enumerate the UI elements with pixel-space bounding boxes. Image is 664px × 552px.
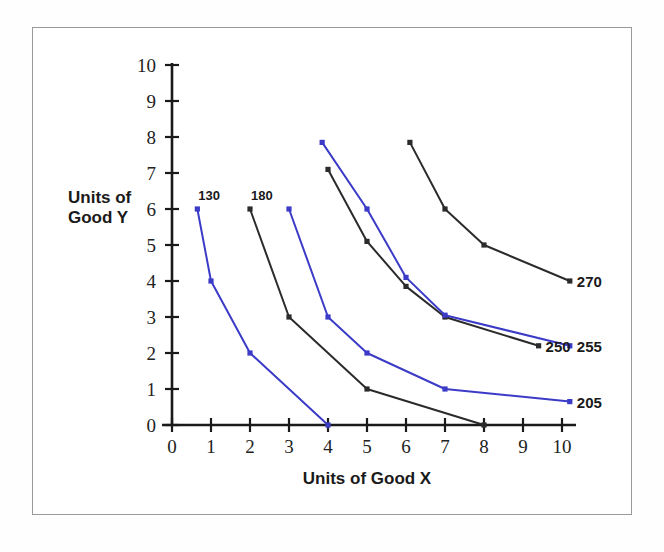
data-point-marker <box>481 422 486 427</box>
x-tick-label: 10 <box>553 436 572 457</box>
data-point-marker <box>208 278 213 283</box>
y-tick-label: 8 <box>147 127 157 148</box>
data-point-marker <box>407 140 412 145</box>
x-tick-label: 4 <box>323 436 333 457</box>
x-tick-label: 6 <box>401 436 411 457</box>
curve-line-270 <box>410 142 570 281</box>
curve-label-205: 205 <box>577 394 602 411</box>
curve-label-130: 130 <box>198 188 220 203</box>
data-point-marker <box>364 386 369 391</box>
data-point-marker <box>567 278 572 283</box>
data-point-marker <box>567 399 572 404</box>
data-point-marker <box>442 313 447 318</box>
curve-label-180: 180 <box>251 188 273 203</box>
tick-labels-group: 012345678910012345678910 <box>137 55 572 457</box>
axes-group <box>162 63 576 432</box>
x-tick-label: 1 <box>206 436 216 457</box>
data-point-marker <box>536 343 541 348</box>
y-tick-label: 3 <box>147 307 157 328</box>
x-tick-label: 3 <box>284 436 294 457</box>
chart-page: 012345678910012345678910 130180205250255… <box>0 0 664 552</box>
curve-label-255: 255 <box>577 338 602 355</box>
x-tick-label: 2 <box>245 436 255 457</box>
curve-series-group <box>195 140 573 428</box>
data-point-marker <box>325 314 330 319</box>
data-point-marker <box>325 167 330 172</box>
data-point-marker <box>364 206 369 211</box>
data-point-marker <box>364 350 369 355</box>
x-tick-label: 9 <box>518 436 528 457</box>
data-point-marker <box>247 206 252 211</box>
data-point-marker <box>286 314 291 319</box>
data-point-marker <box>247 350 252 355</box>
y-tick-label: 9 <box>147 91 157 112</box>
x-tick-label: 8 <box>479 436 489 457</box>
y-axis-title-line1: Units of <box>68 188 132 207</box>
indifference-curve-chart: 012345678910012345678910 130180205250255… <box>0 0 664 552</box>
y-tick-label: 10 <box>137 55 156 76</box>
data-point-marker <box>325 422 330 427</box>
y-tick-label: 4 <box>147 271 157 292</box>
x-tick-label: 5 <box>362 436 372 457</box>
y-tick-label: 2 <box>147 343 157 364</box>
data-point-marker <box>403 284 408 289</box>
data-point-marker <box>403 275 408 280</box>
y-axis-title-line2: Good Y <box>68 208 129 227</box>
x-axis-title: Units of Good X <box>303 469 432 488</box>
data-point-marker <box>442 386 447 391</box>
data-point-marker <box>481 242 486 247</box>
curve-label-250: 250 <box>546 338 571 355</box>
y-tick-label: 5 <box>147 235 157 256</box>
y-tick-label: 6 <box>147 199 157 220</box>
data-point-marker <box>286 206 291 211</box>
data-point-marker <box>320 140 325 145</box>
curve-label-270: 270 <box>577 273 602 290</box>
curve-labels-group: 130180205250255270 <box>198 188 601 411</box>
y-tick-label: 1 <box>147 379 157 400</box>
data-point-marker <box>442 206 447 211</box>
x-tick-label: 0 <box>167 436 177 457</box>
data-point-marker <box>364 239 369 244</box>
y-tick-label: 7 <box>147 163 157 184</box>
data-point-marker <box>195 206 200 211</box>
y-tick-label: 0 <box>147 415 157 436</box>
curve-line-250 <box>328 169 539 345</box>
x-tick-label: 7 <box>440 436 450 457</box>
